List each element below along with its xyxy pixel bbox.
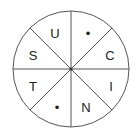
sector-label-left-top: S: [29, 48, 38, 63]
sector-label-top-left: U: [50, 26, 59, 41]
sector-label-left-bottom: T: [29, 79, 37, 94]
sector-label-bottom-left: •: [55, 100, 60, 115]
sector-label-top-right: •: [86, 26, 91, 41]
letter-wheel: • C I N • T S U: [0, 0, 136, 131]
sector-label-right-bottom: I: [109, 79, 113, 94]
center-point: [70, 68, 73, 71]
sector-label-right-top: C: [105, 48, 114, 63]
sector-label-bottom-right: N: [81, 100, 90, 115]
